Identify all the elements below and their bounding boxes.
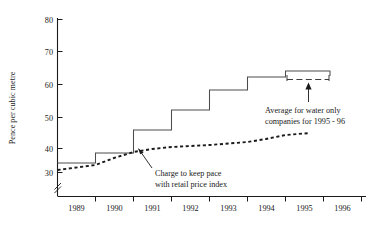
x-tick-label-1990: 1990 <box>106 204 122 213</box>
average-annotation-line2: companies for 1995 - 96 <box>265 117 345 126</box>
x-tick-label-1991: 1991 <box>144 204 160 213</box>
y-tick-label-50: 50 <box>45 114 53 123</box>
y-tick-label-80: 80 <box>45 16 53 25</box>
chart-container: 80 70 60 50 40 30 Pence per cubic metre <box>0 0 380 244</box>
rpi-annotation-line2: with retail price index <box>155 180 227 189</box>
x-tick-label-1994: 1994 <box>258 204 274 213</box>
y-tick-label-30: 30 <box>45 169 53 178</box>
y-tick-label-70: 70 <box>45 48 53 57</box>
average-annotation-line1: Average for water only <box>265 106 341 115</box>
x-tick-label-1993: 1993 <box>220 204 236 213</box>
y-axis-title: Pence per cubic metre <box>8 71 17 144</box>
x-tick-label-1996: 1996 <box>334 204 350 213</box>
y-tick-label-60: 60 <box>45 81 53 90</box>
x-tick-label-1989: 1989 <box>68 204 84 213</box>
water-charges-chart: 80 70 60 50 40 30 Pence per cubic metre <box>0 0 380 244</box>
x-tick-label-1995: 1995 <box>296 204 312 213</box>
rpi-annotation-line1: Charge to keep pace <box>155 169 222 178</box>
x-tick-label-1992: 1992 <box>182 204 198 213</box>
y-tick-label-40: 40 <box>45 145 53 154</box>
